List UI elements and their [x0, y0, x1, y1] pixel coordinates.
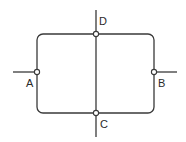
- node-b-label: B: [158, 77, 165, 89]
- node-a-terminal-icon: [34, 69, 39, 74]
- node-d-terminal-icon: [93, 31, 98, 36]
- node-d-label: D: [99, 15, 107, 27]
- node-c-terminal-icon: [93, 110, 98, 115]
- node-b-terminal-icon: [151, 69, 156, 74]
- node-a-label: A: [26, 77, 34, 89]
- node-c-label: C: [100, 118, 108, 130]
- circuit-diagram: A B C D: [0, 0, 186, 142]
